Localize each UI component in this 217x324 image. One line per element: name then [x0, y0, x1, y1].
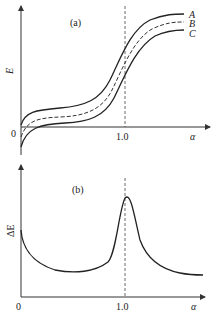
- y-axis-label: E: [4, 68, 15, 75]
- x-axis-label: α: [190, 131, 196, 142]
- tick-label: 1.0: [116, 301, 129, 312]
- panel-b: (b) ΔE α 0 1.0: [5, 165, 205, 312]
- panel-a: (a) E α 0 1.0 A B C: [4, 6, 210, 155]
- y-axis-label: ΔE: [5, 224, 16, 237]
- panel-label: (b): [72, 184, 84, 196]
- figure: (a) E α 0 1.0 A B C (b) ΔE α 0 1.0: [0, 0, 217, 324]
- x-axis-label: α: [191, 301, 197, 312]
- curve-a: [21, 14, 184, 125]
- origin-label: 0: [11, 128, 16, 139]
- panel-label: (a): [70, 17, 81, 29]
- origin-label: 0: [16, 301, 21, 312]
- curve-label-c: C: [189, 28, 196, 39]
- delta-e-curve: [21, 197, 203, 275]
- curve-b: [21, 22, 184, 137]
- curve-c: [21, 30, 184, 147]
- tick-label: 1.0: [116, 131, 129, 142]
